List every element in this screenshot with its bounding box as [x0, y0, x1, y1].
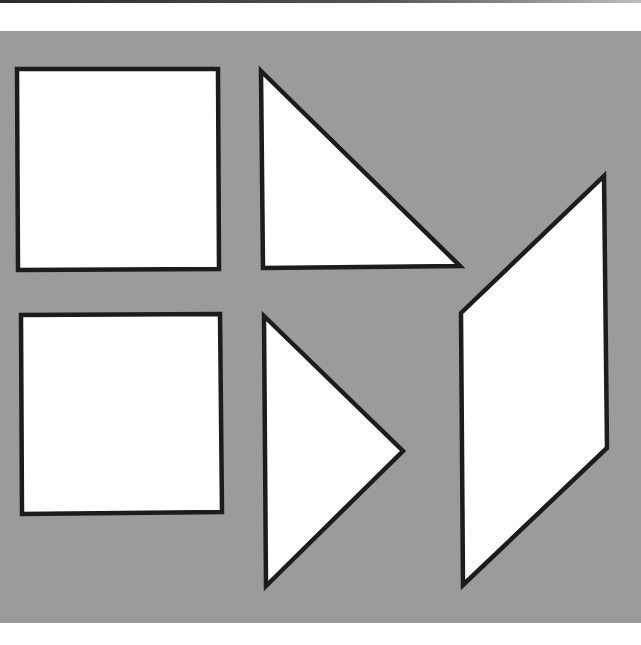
parallelogram-1 — [461, 176, 607, 585]
triangle-2 — [264, 316, 403, 586]
shapes-diagram — [0, 0, 641, 645]
triangle-1 — [261, 71, 460, 268]
square-1 — [17, 69, 219, 270]
square-2 — [21, 314, 222, 514]
